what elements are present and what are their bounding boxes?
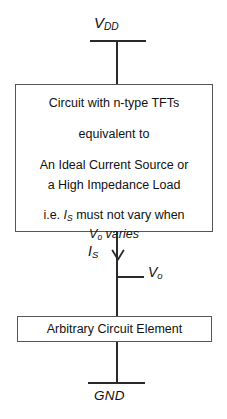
note-voltage-symbol: Vo — [89, 227, 102, 241]
circuit-block-note-line-2: Vo varies — [16, 228, 212, 241]
vdd-symbol: V — [94, 14, 104, 31]
gnd-rail — [88, 382, 145, 384]
note-suffix: varies — [102, 227, 139, 241]
arbitrary-circuit-element-label: Arbitrary Circuit Element — [18, 317, 211, 341]
arbitrary-circuit-element-block: Arbitrary Circuit Element — [17, 316, 212, 342]
output-voltage-label: Vo — [148, 264, 163, 281]
output-node-tap-wire — [117, 276, 144, 278]
note-current-symbol: IS — [64, 208, 73, 222]
circuit-block-note-line-1: i.e. IS must not vary when — [16, 209, 212, 222]
gnd-label: GND — [94, 388, 125, 403]
output-voltage-sub: o — [157, 270, 162, 281]
source-current-sub: S — [92, 249, 98, 260]
wire-vdd-to-circuit-block — [116, 40, 118, 85]
wire-circuit-block-to-element — [116, 232, 118, 317]
current-direction-arrow-icon — [111, 249, 125, 261]
circuit-block-line-3: An Ideal Current Source or — [16, 159, 212, 172]
circuit-block-line-1: Circuit with n-type TFTs — [16, 97, 212, 110]
vdd-rail — [90, 40, 146, 42]
output-voltage-main: V — [148, 264, 157, 280]
wire-element-to-ground — [116, 342, 118, 383]
circuit-block-line-2: equivalent to — [16, 128, 212, 141]
source-current-label: IS — [88, 243, 98, 260]
circuit-block: Circuit with n-type TFTs equivalent to A… — [15, 84, 213, 232]
note-prefix: i.e. — [43, 208, 63, 222]
vdd-subscript: DD — [104, 21, 119, 32]
circuit-block-line-4: a High Impedance Load — [16, 179, 212, 192]
note-middle: must not vary when — [73, 208, 185, 222]
vdd-label: VDD — [94, 14, 119, 32]
circuit-diagram-canvas: VDD Circuit with n-type TFTs equivalent … — [0, 0, 227, 419]
